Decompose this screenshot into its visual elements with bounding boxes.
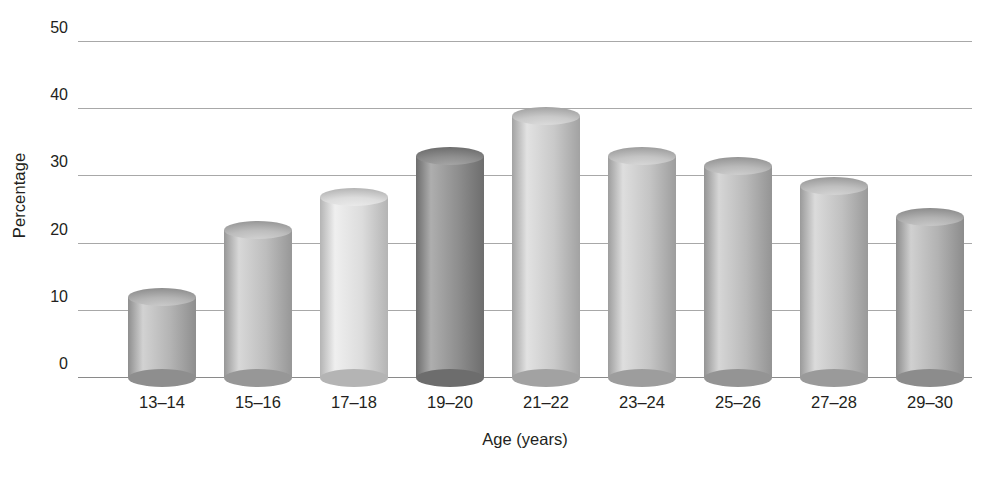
y-axis-tick-label: 40 (28, 87, 68, 103)
bar (320, 188, 388, 378)
bar-body (800, 186, 868, 378)
gridline (78, 41, 972, 42)
bar-body (896, 217, 964, 378)
bar-bottom-cap (320, 369, 388, 387)
bar-bottom-cap (704, 369, 772, 387)
bar (416, 147, 484, 378)
bar-top-ellipse (896, 208, 964, 226)
bar-body (608, 156, 676, 378)
bar-body (320, 197, 388, 378)
x-axis-tick-label: 13–14 (128, 394, 196, 411)
bar-body (128, 297, 196, 378)
bar-body (224, 230, 292, 378)
bar-bottom-cap (224, 369, 292, 387)
x-axis-tick-label: 23–24 (608, 394, 676, 411)
x-axis-tick-label: 17–18 (320, 394, 388, 411)
x-axis-tick-label: 29–30 (896, 394, 964, 411)
bar-bottom-cap (608, 369, 676, 387)
bar-chart: Percentage 01020304050 13–1415–1617–1819… (0, 0, 1008, 477)
bar-top-ellipse (320, 188, 388, 206)
bar-top-ellipse (512, 107, 580, 125)
bar (896, 208, 964, 378)
y-axis-title-text: Percentage (11, 152, 30, 237)
y-axis-tick-label: 0 (28, 356, 68, 372)
bar-bottom-cap (128, 369, 196, 387)
x-axis-tick-label: 15–16 (224, 394, 292, 411)
bar (512, 107, 580, 378)
y-axis-tick-label: 30 (28, 154, 68, 170)
x-axis-tick-label: 27–28 (800, 394, 868, 411)
bar-body (416, 156, 484, 378)
bar-bottom-cap (800, 369, 868, 387)
bar-bottom-cap (512, 369, 580, 387)
x-axis-tick-label: 21–22 (512, 394, 580, 411)
bar-body (704, 166, 772, 378)
bar-bottom-cap (416, 369, 484, 387)
bar (608, 147, 676, 378)
bar (128, 288, 196, 378)
bar (224, 221, 292, 378)
bar (704, 157, 772, 378)
bar-bottom-cap (896, 369, 964, 387)
x-axis-tick-label: 25–26 (704, 394, 772, 411)
plot-area (78, 42, 972, 378)
bar (800, 177, 868, 378)
y-axis-tick-label: 50 (28, 20, 68, 36)
bar-body (512, 116, 580, 378)
y-axis-tick-label: 10 (28, 289, 68, 305)
y-axis-title: Percentage (0, 0, 40, 390)
y-axis-tick-label: 20 (28, 222, 68, 238)
x-axis-title: Age (years) (78, 430, 972, 449)
x-axis-tick-label: 19–20 (416, 394, 484, 411)
